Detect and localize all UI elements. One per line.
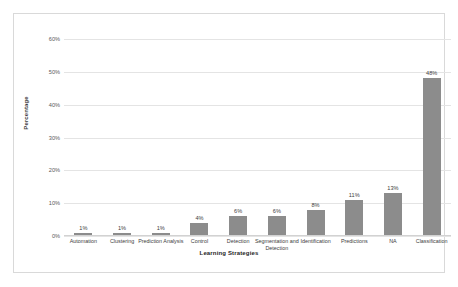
- y-tick-label: 40%: [34, 102, 60, 108]
- y-axis-title: Percentage: [23, 83, 29, 143]
- y-tick-label: 10%: [34, 200, 60, 206]
- chart-frame: Percentage 0%10%20%30%40%50%60% 1%1%1%4%…: [13, 13, 445, 273]
- y-tick-label: 50%: [34, 69, 60, 75]
- gridline: [64, 236, 451, 237]
- bar[interactable]: [345, 200, 363, 236]
- y-tick-label: 0%: [34, 233, 60, 239]
- bar-value-label: 6%: [257, 208, 297, 214]
- y-tick-label: 30%: [34, 135, 60, 141]
- bar-value-label: 6%: [218, 208, 258, 214]
- bar-value-label: 8%: [296, 202, 336, 208]
- y-tick-label: 60%: [34, 36, 60, 42]
- bar[interactable]: [229, 216, 247, 236]
- bar-slot[interactable]: 1%: [103, 39, 142, 236]
- bar[interactable]: [423, 78, 441, 236]
- bar-slot[interactable]: 13%: [374, 39, 413, 236]
- bar-slot[interactable]: 6%: [219, 39, 258, 236]
- x-axis-title: Learning Strategies: [0, 250, 458, 256]
- bar-value-label: 1%: [102, 225, 142, 231]
- bar-slot[interactable]: 8%: [296, 39, 335, 236]
- bar-value-label: 4%: [179, 215, 219, 221]
- bar-value-label: 1%: [63, 225, 103, 231]
- bar-slot[interactable]: 1%: [64, 39, 103, 236]
- bar-slot[interactable]: 6%: [258, 39, 297, 236]
- x-tick-label: Classification: [409, 238, 455, 245]
- bar-slot[interactable]: 1%: [141, 39, 180, 236]
- y-tick-label: 20%: [34, 167, 60, 173]
- bar-value-label: 1%: [141, 225, 181, 231]
- axis-baseline: [64, 235, 451, 236]
- bar[interactable]: [268, 216, 286, 236]
- bar-slot[interactable]: 4%: [180, 39, 219, 236]
- bar-value-label: 11%: [334, 192, 374, 198]
- bar-value-label: 48%: [412, 70, 452, 76]
- bar-slot[interactable]: 48%: [412, 39, 451, 236]
- bar[interactable]: [307, 210, 325, 236]
- bar[interactable]: [384, 193, 402, 236]
- bar-slot[interactable]: 11%: [335, 39, 374, 236]
- plot-area: 1%1%1%4%6%6%8%11%13%48%: [64, 39, 451, 236]
- bar-value-label: 13%: [373, 185, 413, 191]
